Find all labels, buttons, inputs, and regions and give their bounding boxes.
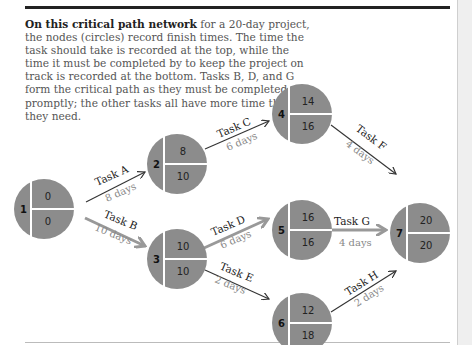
svg-text:16: 16 xyxy=(302,121,315,132)
task-f-arrow: Task F 4 days xyxy=(331,122,396,174)
svg-text:5: 5 xyxy=(278,225,285,236)
svg-text:20: 20 xyxy=(420,215,433,226)
node-2: 2 8 10 xyxy=(147,134,207,194)
node-3: 3 10 10 xyxy=(147,229,207,289)
svg-text:8: 8 xyxy=(180,146,186,157)
node-1: 1 0 0 xyxy=(14,179,74,239)
svg-text:1: 1 xyxy=(20,204,27,215)
svg-text:4: 4 xyxy=(278,109,285,120)
svg-text:10: 10 xyxy=(177,171,190,182)
svg-text:0: 0 xyxy=(45,191,51,202)
svg-text:2: 2 xyxy=(153,159,160,170)
task-e-arrow: Task E 2 days xyxy=(205,260,269,299)
task-g-arrow: Task G 4 days xyxy=(332,215,386,248)
svg-text:10: 10 xyxy=(177,241,190,252)
task-a-arrow: Task A 8 days xyxy=(86,162,145,203)
svg-text:16: 16 xyxy=(302,237,315,248)
node-6: 6 12 18 xyxy=(272,293,332,345)
svg-text:6: 6 xyxy=(278,318,285,329)
svg-text:Task G: Task G xyxy=(334,215,370,227)
svg-text:4 days: 4 days xyxy=(339,237,372,248)
task-c-arrow: Task C 6 days xyxy=(205,115,269,153)
task-h-arrow: Task H 2 days xyxy=(331,268,396,312)
svg-text:7: 7 xyxy=(396,228,403,239)
node-4: 4 14 16 xyxy=(272,84,332,144)
task-b-arrow: Task B 10 days xyxy=(85,208,145,247)
svg-text:16: 16 xyxy=(302,212,315,223)
svg-text:14: 14 xyxy=(302,96,315,107)
svg-text:10: 10 xyxy=(177,266,190,277)
svg-text:12: 12 xyxy=(302,305,315,316)
svg-text:20: 20 xyxy=(420,240,433,251)
svg-text:3: 3 xyxy=(153,254,160,265)
node-7: 7 20 20 xyxy=(390,203,450,263)
svg-text:0: 0 xyxy=(45,216,51,227)
node-5: 5 16 16 xyxy=(272,200,332,260)
task-d-arrow: Task D 6 days xyxy=(204,213,268,251)
svg-text:18: 18 xyxy=(302,330,315,341)
